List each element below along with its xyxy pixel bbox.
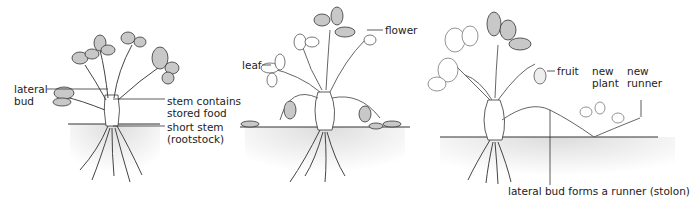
- label-leaf: leaf: [242, 59, 262, 71]
- label-flower: flower: [385, 24, 417, 36]
- fruit-shape: [534, 68, 546, 84]
- label-new-runner: new runner: [627, 65, 662, 89]
- panel-1-plant: [47, 32, 179, 194]
- label-fruit: fruit: [557, 65, 579, 77]
- label-runner-stolon: lateral bud forms a runner (stolon): [508, 185, 690, 197]
- panel-3-plant: [428, 12, 675, 192]
- label-lateral-bud: lateral bud: [14, 83, 48, 107]
- label-short-stem-rootstock: short stem (rootstock): [167, 121, 224, 145]
- label-new-plant: new plant: [592, 65, 619, 89]
- label-stem-contains-stored-food: stem contains stored food: [167, 95, 241, 119]
